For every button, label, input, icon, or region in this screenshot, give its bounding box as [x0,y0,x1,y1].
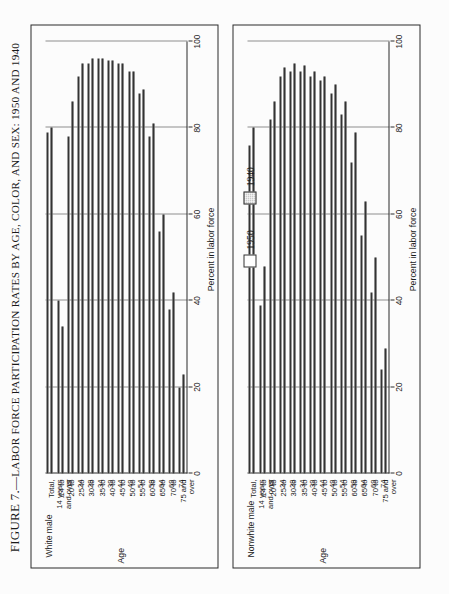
bar-1940 [283,67,285,473]
figure-number: FIGURE 7.— [6,476,21,551]
bar-group [116,41,126,473]
panel-white-male: White male020406080100Total, 14 years an… [30,24,218,568]
tick-label-80: 80 [393,123,403,132]
bar-1950 [67,136,69,473]
bar-1940 [344,101,346,473]
value-axis-title: Percent in labor force [407,25,417,473]
bar-1940 [172,292,174,473]
bar-1940 [121,63,123,473]
bar-1950 [57,300,59,473]
figure-page: FIGURE 7.—LABOR FORCE PARTICIPATION RATE… [0,0,449,594]
bar-1940 [384,348,386,473]
bar-1950 [128,71,130,473]
legend-swatch-1950 [243,254,256,267]
bar-1950 [138,93,140,473]
bar-1950 [87,63,89,473]
bar-group [65,41,75,473]
bar-group [277,41,287,473]
bar-group [96,41,106,473]
bar-1950 [46,132,48,473]
bar-1940 [182,374,184,473]
category-label: 75 and over [381,479,398,559]
bar-group [45,41,55,473]
bar-1940 [313,71,315,473]
bar-group [86,41,96,473]
bar-1950 [289,71,291,473]
rotated-figure-canvas: FIGURE 7.—LABOR FORCE PARTICIPATION RATE… [0,0,449,594]
bar-1950 [299,71,301,473]
bar-group [167,41,177,473]
bar-1940 [162,214,164,473]
plot-area-white-male: 020406080100Total, 14 years and over14 t… [45,41,187,473]
value-axis-title: Percent in labor force [205,25,215,473]
bar-group [298,41,308,473]
bar-1950 [107,60,109,473]
bar-1940 [364,201,366,473]
legend-swatch-1940 [243,191,256,204]
tick-label-0: 0 [191,471,201,476]
bar-1940 [273,101,275,473]
legend-label-1940: 1940 [244,167,255,186]
legend-item-1940: 1940 [243,167,256,204]
tick-label-20: 20 [393,382,403,391]
bar-1950 [168,309,170,473]
bar-group [379,41,389,473]
bar-1950 [279,76,281,473]
category-axis-title: Age [115,547,125,563]
bar-group [288,41,298,473]
bar-1940 [111,60,113,473]
bar-group [328,41,338,473]
bar-group [126,41,136,473]
figure-title: FIGURE 7.—LABOR FORCE PARTICIPATION RATE… [6,0,22,594]
tick-label-40: 40 [191,296,201,305]
legend-label-1950: 1950 [244,230,255,249]
tick-label-0: 0 [393,471,403,476]
bar-group [308,41,318,473]
bar-group [75,41,85,473]
bar-1950 [97,58,99,473]
bar-1950 [319,80,321,473]
bar-1940 [101,58,103,473]
bar-1950 [158,231,160,473]
category-axis-title: Age [317,547,327,563]
bar-group [106,41,116,473]
tick-label-60: 60 [191,209,201,218]
figure-title-text: LABOR FORCE PARTICIPATION RATES BY AGE, … [8,42,20,476]
legend: 19501940 [243,167,256,267]
category-label: 75 and over [179,479,196,559]
bar-1950 [309,76,311,473]
bar-1950 [340,114,342,473]
bar-1950 [117,63,119,473]
bar-1940 [303,65,305,473]
bar-1940 [374,257,376,473]
plot-area-nonwhite-male: 020406080100Total, 14 years and over14 t… [247,41,389,473]
tick-label-80: 80 [191,123,201,132]
bar-group [177,41,187,473]
bar-1940 [142,89,144,473]
bar-group [157,41,167,473]
bar-group [318,41,328,473]
bar-1940 [61,326,63,473]
bar-1940 [323,76,325,473]
bar-1940 [132,71,134,473]
bar-group [359,41,369,473]
bar-group [146,41,156,473]
bar-1950 [77,76,79,473]
bar-1950 [370,292,372,473]
bar-group [338,41,348,473]
bar-1950 [330,93,332,473]
tick-label-100: 100 [191,34,201,48]
bar-1940 [263,266,265,473]
tick-label-100: 100 [393,34,403,48]
bar-1950 [350,162,352,473]
bar-group [257,41,267,473]
tick-label-40: 40 [393,296,403,305]
bar-group [348,41,358,473]
bar-1940 [81,63,83,473]
bar-1940 [334,84,336,473]
legend-item-1950: 1950 [243,230,256,267]
bar-1940 [293,63,295,473]
tick-label-20: 20 [191,382,201,391]
bar-1950 [380,369,382,473]
bar-1940 [152,123,154,473]
